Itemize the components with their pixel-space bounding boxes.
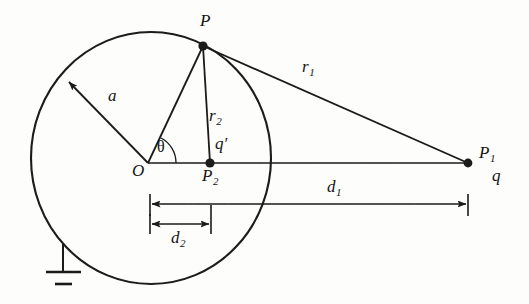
label-charge-q: q (492, 167, 501, 184)
line-P2-to-P-r2 (203, 46, 210, 163)
label-distance-r2: r2 (209, 107, 222, 127)
node-dot-P (198, 41, 207, 50)
label-r1-subscript: 1 (309, 66, 315, 78)
label-point-O: O (132, 162, 144, 179)
label-point-P2: P2 (202, 167, 218, 187)
physics-diagram-figure: P O θ a r1 r2 q′ P2 P1 q d1 d2 (0, 0, 529, 304)
label-radius-a: a (108, 87, 117, 104)
label-point-P1: P1 (479, 144, 495, 164)
label-P1-subscript: 1 (490, 152, 496, 164)
label-d2-subscript: 2 (180, 237, 186, 249)
node-dot-P1 (464, 159, 473, 168)
label-distance-d2: d2 (171, 229, 186, 249)
label-image-charge-q-prime: q′ (215, 135, 227, 152)
label-P2-subscript: 2 (213, 175, 219, 187)
label-distance-d1: d1 (327, 178, 342, 198)
line-P-to-P1-r1 (203, 46, 468, 163)
label-r2-subscript: 2 (216, 115, 222, 127)
label-distance-r1: r1 (302, 58, 315, 78)
label-point-P: P (200, 12, 210, 29)
diagram-canvas (0, 0, 529, 304)
label-angle-theta: θ (157, 139, 165, 155)
label-d1-subscript: 1 (336, 186, 342, 198)
